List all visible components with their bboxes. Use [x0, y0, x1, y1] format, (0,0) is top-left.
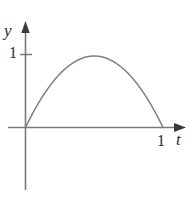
- y-axis-arrowhead: [21, 21, 29, 33]
- graph-canvas: [0, 0, 196, 197]
- t-axis-tick-label-1: 1: [157, 133, 165, 149]
- figure-container: y t 1 1: [0, 0, 196, 197]
- t-axis-label: t: [176, 131, 181, 148]
- y-axis-tick-label-1: 1: [9, 45, 17, 61]
- parabola-curve: [26, 56, 164, 128]
- y-axis-label: y: [4, 22, 12, 39]
